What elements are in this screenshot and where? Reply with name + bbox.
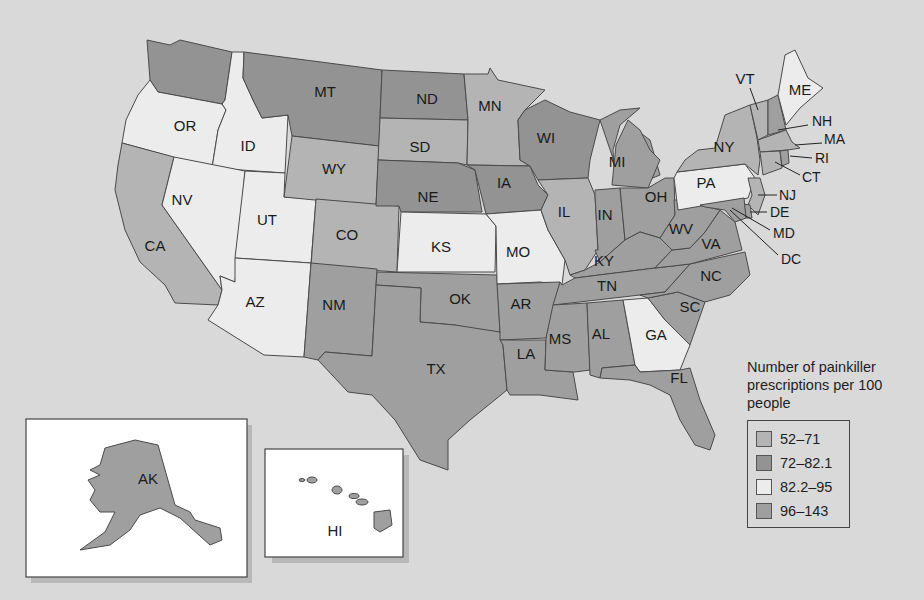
legend: Number of painkiller prescriptions per 1… [747,358,924,528]
label-ia: IA [497,174,511,191]
label-ri: RI [815,150,829,166]
label-fl: FL [670,369,688,386]
label-ma: MA [824,131,846,147]
legend-swatch [756,455,772,471]
label-tn: TN [597,277,617,294]
label-ct: CT [802,169,821,185]
label-ok: OK [449,290,471,307]
state-ct[interactable] [760,151,782,175]
state-fl[interactable] [600,365,715,450]
label-nj: NJ [779,187,796,203]
legend-box: 52–71 72–82.1 82.2–95 96–143 [747,420,850,528]
label-nc: NC [700,267,722,284]
label-in: IN [598,206,613,223]
hawaii-inset [265,449,403,557]
label-nv: NV [172,191,193,208]
label-ca: CA [145,237,166,254]
label-wv: WV [669,220,693,237]
label-ks: KS [431,238,451,255]
label-wi: WI [537,129,555,146]
legend-item: 72–82.1 [756,451,849,475]
label-wy: WY [322,160,346,177]
label-mo: MO [506,243,530,260]
label-co: CO [336,226,359,243]
label-nd: ND [416,90,438,107]
label-me: ME [789,81,812,98]
label-mi: MI [609,153,626,170]
label-az: AZ [245,293,264,310]
label-la: LA [517,345,535,362]
label-tx: TX [426,360,445,377]
legend-swatch [756,479,772,495]
label-ut: UT [257,211,277,228]
legend-swatch [756,431,772,447]
label-il: IL [558,203,571,220]
state-ri[interactable] [780,150,789,166]
label-mt: MT [314,83,336,100]
label-ne: NE [418,188,439,205]
label-al: AL [592,325,610,342]
label-id: ID [241,137,256,154]
legend-title: Number of painkiller prescriptions per 1… [747,358,917,412]
legend-swatch [756,503,772,519]
label-nh: NH [812,113,832,129]
label-pa: PA [697,174,716,191]
label-dc: DC [781,251,801,267]
label-nm: NM [322,296,345,313]
legend-item: 96–143 [756,499,849,523]
legend-label: 82.2–95 [780,479,832,495]
label-ms: MS [549,330,572,347]
label-ny: NY [714,138,735,155]
label-de: DE [770,204,789,220]
label-va: VA [702,235,721,252]
label-sc: SC [680,298,701,315]
legend-label: 72–82.1 [780,455,832,471]
label-hi: HI [328,522,343,539]
label-md: MD [773,225,795,241]
legend-item: 82.2–95 [756,475,849,499]
label-sd: SD [410,138,431,155]
label-vt: VT [735,70,754,87]
label-ar: AR [511,295,532,312]
legend-label: 52–71 [780,431,820,447]
label-or: OR [174,117,197,134]
legend-item: 52–71 [756,427,849,451]
legend-label: 96–143 [780,503,828,519]
label-ky: KY [594,252,614,269]
label-oh: OH [645,188,668,205]
label-ak: AK [138,470,158,487]
label-ga: GA [645,326,667,343]
label-mn: MN [478,97,501,114]
